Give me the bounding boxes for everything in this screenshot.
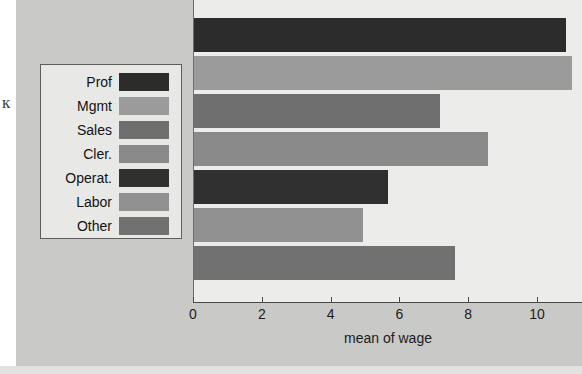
bar-sales <box>194 94 440 128</box>
x-tick-label-2: 2 <box>242 306 282 322</box>
legend-item-sales: Sales <box>41 117 183 142</box>
legend-swatch <box>119 97 169 115</box>
x-tick-10 <box>537 297 538 303</box>
legend-item-labor: Labor <box>41 189 183 214</box>
legend-swatch <box>119 217 169 235</box>
bar-other <box>194 246 455 280</box>
bar-prof <box>194 18 566 52</box>
page-edge-glyph: к <box>2 92 16 114</box>
bar-operat <box>194 170 388 204</box>
chart-page: к 0246810 mean of wage ProfMgmtSalesCler… <box>0 0 582 374</box>
bar-mgmt <box>194 56 572 90</box>
legend-item-label: Sales <box>41 122 119 138</box>
x-tick-label-4: 4 <box>311 306 351 322</box>
legend-item-other: Other <box>41 213 183 238</box>
scan-bottom-margin <box>0 366 582 374</box>
bar-labor <box>194 208 363 242</box>
legend-swatch <box>119 193 169 211</box>
legend-swatch <box>119 121 169 139</box>
legend-item-label: Labor <box>41 194 119 210</box>
x-tick-0 <box>193 297 194 303</box>
y-axis-spine <box>193 0 194 303</box>
legend-item-label: Prof <box>41 74 119 90</box>
bar-cler <box>194 132 488 166</box>
legend-item-mgmt: Mgmt <box>41 93 183 118</box>
x-tick-label-8: 8 <box>448 306 488 322</box>
x-tick-2 <box>262 297 263 303</box>
legend-swatch <box>119 145 169 163</box>
bars-container <box>194 0 582 302</box>
legend-item-label: Mgmt <box>41 98 119 114</box>
legend-swatch <box>119 169 169 187</box>
scan-left-margin <box>0 0 16 374</box>
x-tick-4 <box>331 297 332 303</box>
x-tick-label-10: 10 <box>517 306 557 322</box>
x-tick-8 <box>468 297 469 303</box>
legend-item-prof: Prof <box>41 69 183 94</box>
legend-item-cler: Cler. <box>41 141 183 166</box>
legend: ProfMgmtSalesCler.Operat.LaborOther <box>40 64 182 239</box>
legend-item-label: Other <box>41 218 119 234</box>
x-axis-title: mean of wage <box>194 330 582 346</box>
x-tick-label-0: 0 <box>173 306 213 322</box>
x-tick-6 <box>399 297 400 303</box>
legend-swatch <box>119 73 169 91</box>
x-tick-label-6: 6 <box>379 306 419 322</box>
legend-item-label: Cler. <box>41 146 119 162</box>
legend-item-label: Operat. <box>41 170 119 186</box>
x-axis-line <box>193 302 582 303</box>
legend-item-operat: Operat. <box>41 165 183 190</box>
